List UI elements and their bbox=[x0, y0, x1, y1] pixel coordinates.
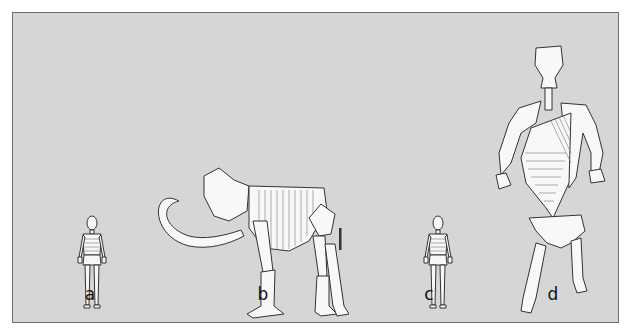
panel-label-d: d bbox=[548, 284, 559, 304]
panel-label-c: c bbox=[424, 284, 433, 304]
mammoth-skeleton-icon bbox=[149, 166, 349, 326]
giant-skeleton-icon bbox=[491, 43, 616, 323]
panel-label-a: a bbox=[85, 284, 95, 304]
panel-label-b: b bbox=[258, 284, 269, 304]
figure-panel: a b c bbox=[12, 12, 619, 323]
